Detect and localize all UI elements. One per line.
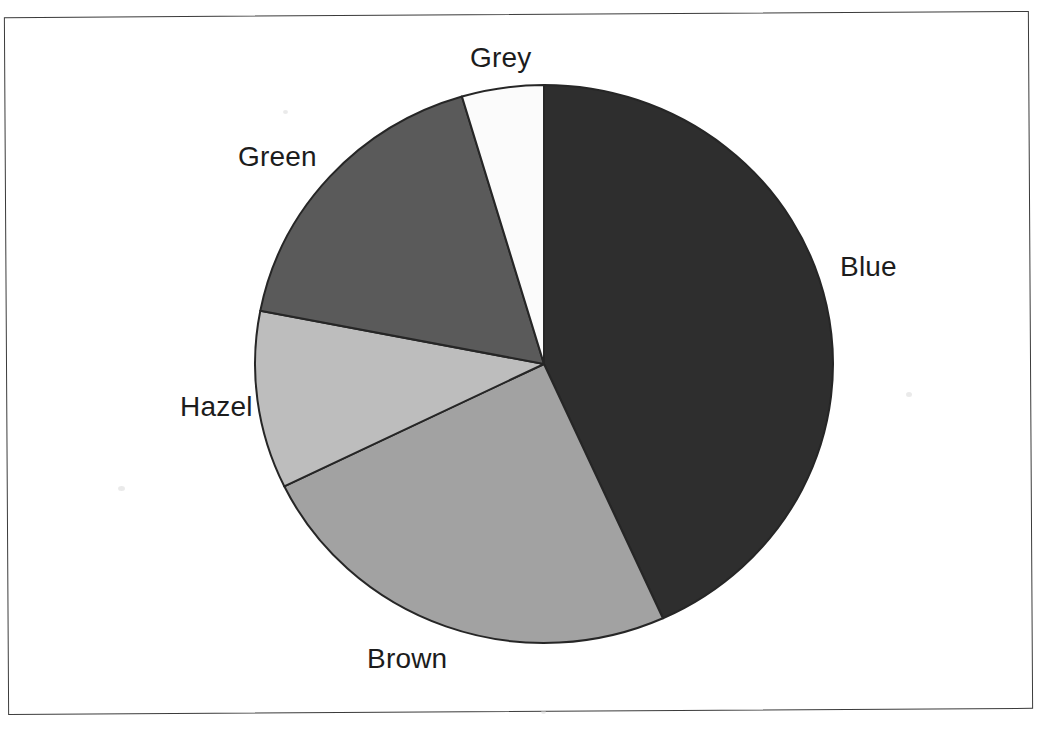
pie-label-brown: Brown: [367, 645, 447, 673]
scan-speck: [283, 110, 288, 114]
pie-chart: Grey Blue Green Hazel Brown: [0, 0, 1041, 734]
scanned-page: Grey Blue Green Hazel Brown: [0, 0, 1041, 734]
pie-chart-svg: [0, 0, 1041, 734]
pie-label-grey: Grey: [470, 44, 531, 72]
scan-speck: [118, 486, 125, 491]
scan-speck: [906, 392, 912, 397]
pie-slice-group: [255, 85, 833, 643]
pie-label-green: Green: [238, 143, 317, 171]
pie-label-blue: Blue: [840, 253, 897, 281]
scan-speck: [541, 710, 546, 714]
pie-label-hazel: Hazel: [180, 393, 253, 421]
